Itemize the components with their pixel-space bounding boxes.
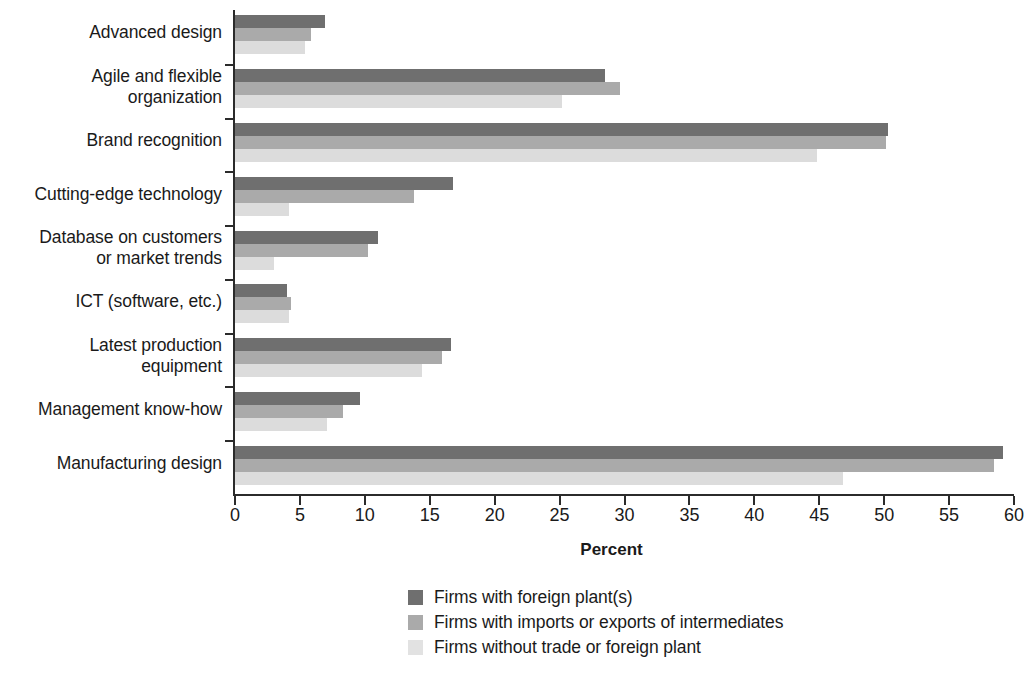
x-axis-tick <box>234 496 236 505</box>
bar <box>234 472 843 485</box>
category-label: Latest productionequipment <box>0 335 222 377</box>
category-label: Advanced design <box>0 22 222 43</box>
legend-label: Firms without trade or foreign plant <box>434 637 701 658</box>
x-axis-tick <box>299 496 301 505</box>
x-axis-tick-label: 35 <box>659 505 719 526</box>
bar <box>234 284 287 297</box>
bar-chart: Advanced designAgile and flexibleorganiz… <box>0 0 1033 675</box>
bar <box>234 310 289 323</box>
x-axis-tick-label: 55 <box>919 505 979 526</box>
plot-area <box>234 10 1013 494</box>
legend-swatch <box>408 615 423 630</box>
category-label-line: Management know-how <box>0 399 222 420</box>
x-axis-tick-label: 30 <box>595 505 655 526</box>
category-label-line: Latest production <box>0 335 222 356</box>
x-axis-tick <box>883 496 885 505</box>
y-axis-tick <box>225 225 234 227</box>
category-label: Agile and flexibleorganization <box>0 66 222 108</box>
y-axis-tick <box>225 64 234 66</box>
legend-label: Firms with imports or exports of interme… <box>434 612 783 633</box>
category-label: Cutting-edge technology <box>0 184 222 205</box>
x-axis-tick-label: 15 <box>400 505 460 526</box>
bar <box>234 95 562 108</box>
x-axis-title: Percent <box>0 540 1033 560</box>
bar <box>234 297 291 310</box>
x-axis-tick-label: 5 <box>270 505 330 526</box>
category-label: Management know-how <box>0 399 222 420</box>
category-label-line: or market trends <box>0 248 222 269</box>
category-label-line: Database on customers <box>0 227 222 248</box>
x-axis-tick-label: 60 <box>984 505 1033 526</box>
y-axis-tick <box>225 171 234 173</box>
bar <box>234 203 289 216</box>
x-axis-tick <box>753 496 755 505</box>
bar <box>234 418 327 431</box>
legend-item: Firms with foreign plant(s) <box>408 585 783 610</box>
bar <box>234 136 886 149</box>
category-label-line: Manufacturing design <box>0 453 222 474</box>
y-axis-tick <box>225 333 234 335</box>
x-axis-tick <box>818 496 820 505</box>
legend-swatch <box>408 640 423 655</box>
x-axis-tick <box>364 496 366 505</box>
category-label-line: equipment <box>0 356 222 377</box>
bar <box>234 231 378 244</box>
x-axis-tick-label: 0 <box>205 505 265 526</box>
bar <box>234 177 453 190</box>
category-label-line: organization <box>0 87 222 108</box>
category-label-line: ICT (software, etc.) <box>0 291 222 312</box>
legend-item: Firms without trade or foreign plant <box>408 635 783 660</box>
category-label: Manufacturing design <box>0 453 222 474</box>
category-label: ICT (software, etc.) <box>0 291 222 312</box>
category-label-line: Brand recognition <box>0 130 222 151</box>
bar <box>234 15 325 28</box>
legend-item: Firms with imports or exports of interme… <box>408 610 783 635</box>
x-axis-title-text: Percent <box>390 540 642 559</box>
y-axis-line <box>233 10 235 495</box>
x-axis-tick-label: 50 <box>854 505 914 526</box>
x-axis-tick-label: 25 <box>530 505 590 526</box>
bar <box>234 82 620 95</box>
x-axis-tick-label: 40 <box>724 505 784 526</box>
bar <box>234 364 422 377</box>
x-axis-tick <box>688 496 690 505</box>
bar <box>234 28 311 41</box>
legend-label: Firms with foreign plant(s) <box>434 587 633 608</box>
x-axis-tick <box>429 496 431 505</box>
bar <box>234 123 888 136</box>
bar <box>234 351 442 364</box>
x-axis-tick <box>494 496 496 505</box>
x-axis-tick <box>948 496 950 505</box>
y-axis-tick <box>225 118 234 120</box>
category-label: Brand recognition <box>0 130 222 151</box>
y-axis-tick <box>225 279 234 281</box>
category-label-line: Agile and flexible <box>0 66 222 87</box>
bar <box>234 69 605 82</box>
bar <box>234 446 1003 459</box>
bar <box>234 405 343 418</box>
bar <box>234 257 274 270</box>
bar <box>234 41 305 54</box>
chart-legend: Firms with foreign plant(s)Firms with im… <box>408 585 783 660</box>
category-label-line: Advanced design <box>0 22 222 43</box>
x-axis-tick-label: 10 <box>335 505 395 526</box>
x-axis-tick-label: 45 <box>789 505 849 526</box>
bar <box>234 190 414 203</box>
y-axis-tick <box>225 440 234 442</box>
category-label: Database on customersor market trends <box>0 227 222 269</box>
bar <box>234 244 368 257</box>
bar <box>234 338 451 351</box>
x-axis-tick-label: 20 <box>465 505 525 526</box>
x-axis-tick <box>559 496 561 505</box>
x-axis-tick <box>624 496 626 505</box>
bar <box>234 392 360 405</box>
bar <box>234 149 817 162</box>
legend-swatch <box>408 590 423 605</box>
bar <box>234 459 994 472</box>
y-axis-tick <box>225 386 234 388</box>
x-axis-tick <box>1013 496 1015 505</box>
category-label-line: Cutting-edge technology <box>0 184 222 205</box>
